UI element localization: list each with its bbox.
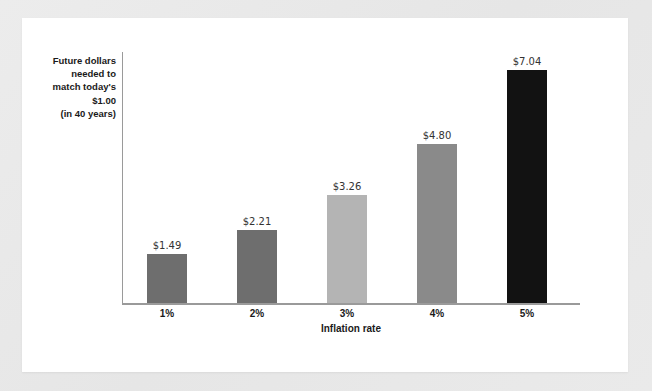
- y-axis-label-line-2: needed to: [40, 67, 116, 80]
- y-axis-label: Future dollars needed to match today's $…: [40, 54, 116, 120]
- y-axis-label-line-3: match today's: [40, 80, 116, 93]
- bar-group: $1.49: [122, 52, 212, 303]
- x-axis-tick-label: 2%: [212, 308, 302, 319]
- bar-value-label: $4.80: [392, 130, 482, 141]
- bar[interactable]: [327, 195, 367, 303]
- bar[interactable]: [237, 230, 277, 303]
- bar-group: $2.21: [212, 52, 302, 303]
- y-axis-label-line-5: (in 40 years): [40, 107, 116, 120]
- x-axis-tick-label: 3%: [302, 308, 392, 319]
- bar-value-label: $2.21: [212, 216, 302, 227]
- bar-group: $4.80: [392, 52, 482, 303]
- bar[interactable]: [507, 70, 547, 303]
- bars-container: $1.49$2.21$3.26$4.80$7.04: [122, 52, 580, 303]
- x-axis-tick-label: 1%: [122, 308, 212, 319]
- x-axis-tick-label: 5%: [482, 308, 572, 319]
- x-axis-tick-label: 4%: [392, 308, 482, 319]
- bar[interactable]: [417, 144, 457, 303]
- bar-value-label: $1.49: [122, 240, 212, 251]
- page-background: Future dollars needed to match today's $…: [0, 0, 652, 391]
- chart-card: Future dollars needed to match today's $…: [22, 18, 628, 372]
- x-axis-title: Inflation rate: [122, 323, 580, 334]
- y-axis-label-line-4: $1.00: [40, 94, 116, 107]
- bar-group: $3.26: [302, 52, 392, 303]
- bar-group: $7.04: [482, 52, 572, 303]
- bar-value-label: $7.04: [482, 56, 572, 67]
- bar-value-label: $3.26: [302, 181, 392, 192]
- y-axis-label-line-1: Future dollars: [40, 54, 116, 67]
- bar[interactable]: [147, 254, 187, 303]
- x-axis-line: [122, 303, 580, 305]
- bar-chart: Future dollars needed to match today's $…: [22, 18, 628, 372]
